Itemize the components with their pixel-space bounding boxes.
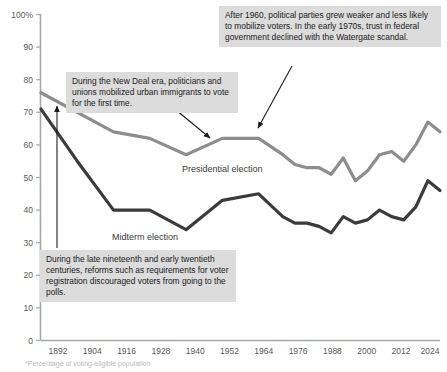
y-tick-label-30: 30 bbox=[24, 238, 34, 248]
x-tick-label-1964: 1964 bbox=[254, 346, 273, 356]
y-tick-label-10: 10 bbox=[24, 303, 34, 313]
y-tick-label-20: 20 bbox=[24, 270, 34, 280]
annotation-new-deal: During the New Deal era, politicians and… bbox=[66, 72, 238, 113]
x-tick-label-2012: 2012 bbox=[392, 346, 411, 356]
chart-plot-area: 100% 90 80 70 60 50 40 30 20 10 0 1892 1… bbox=[0, 0, 447, 372]
annotation-arrow-parties-weaker bbox=[258, 66, 292, 128]
y-tick-label-60: 60 bbox=[24, 140, 34, 150]
chart-footnote: *Percentage of voting-eligible populatio… bbox=[25, 360, 150, 367]
y-tick-label-100: 100% bbox=[11, 10, 33, 20]
annotation-arrow-new-deal bbox=[176, 110, 210, 138]
y-tick-label-40: 40 bbox=[24, 205, 34, 215]
x-tick-label-1904: 1904 bbox=[83, 346, 102, 356]
y-tick-label-0: 0 bbox=[28, 336, 33, 346]
y-tick-label-80: 80 bbox=[24, 75, 34, 85]
x-tick-label-1892: 1892 bbox=[49, 346, 68, 356]
x-tick-label-2000: 2000 bbox=[357, 346, 376, 356]
y-tick-label-90: 90 bbox=[24, 42, 34, 52]
x-tick-label-1988: 1988 bbox=[323, 346, 342, 356]
x-tick-label-1952: 1952 bbox=[220, 346, 239, 356]
series-label-midterm: Midterm election bbox=[112, 232, 178, 242]
x-tick-label-1940: 1940 bbox=[186, 346, 205, 356]
x-tick-label-1916: 1916 bbox=[117, 346, 136, 356]
y-tick-label-70: 70 bbox=[24, 107, 34, 117]
series-label-presidential: Presidential election bbox=[182, 164, 263, 174]
x-tick-label-2024: 2024 bbox=[421, 346, 440, 356]
annotation-parties-weaker: After 1960, political parties grew weake… bbox=[219, 6, 441, 47]
y-tick-label-50: 50 bbox=[24, 173, 34, 183]
x-tick-label-1928: 1928 bbox=[151, 346, 170, 356]
annotation-registration-reforms: During the late nineteenth and early twe… bbox=[40, 250, 236, 302]
voter-turnout-chart: 100% 90 80 70 60 50 40 30 20 10 0 1892 1… bbox=[0, 0, 447, 372]
x-tick-label-1976: 1976 bbox=[289, 346, 308, 356]
